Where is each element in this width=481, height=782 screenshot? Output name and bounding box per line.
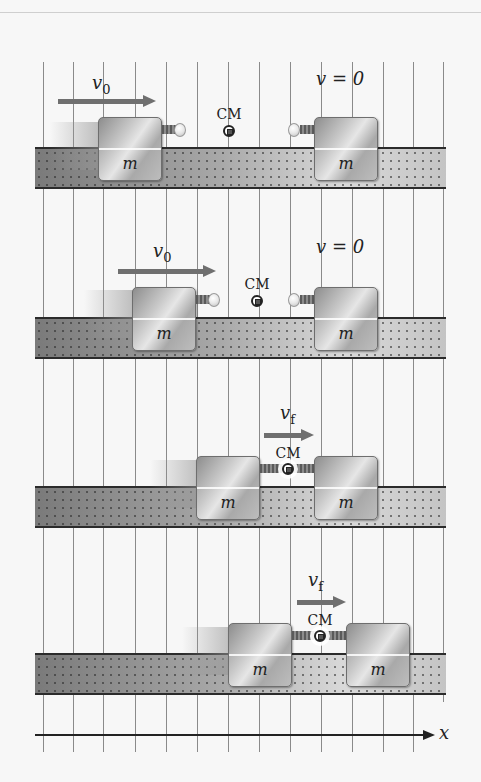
x-axis-line — [35, 734, 425, 736]
velocity-label-zero: v = 0 — [316, 68, 364, 89]
top-border-line — [0, 12, 481, 13]
bumper-ball — [174, 123, 186, 137]
x-axis-label: x — [439, 722, 449, 743]
block-right: m — [314, 287, 378, 351]
bumper-rod — [300, 125, 314, 134]
velocity-arrow — [118, 269, 204, 274]
motion-blur — [50, 122, 100, 170]
velocity-arrow — [58, 99, 144, 104]
center-of-mass-icon — [314, 630, 326, 642]
center-of-mass-icon — [223, 125, 235, 137]
velocity-label-zero: v = 0 — [316, 236, 364, 257]
mass-label: m — [347, 660, 409, 679]
block-right: m — [314, 117, 378, 181]
mass-label: m — [315, 154, 377, 173]
block-left: m — [196, 456, 260, 520]
center-of-mass-icon — [251, 295, 263, 307]
mass-label: m — [315, 493, 377, 512]
velocity-arrow — [297, 600, 334, 605]
motion-blur — [150, 460, 200, 508]
mass-label: m — [315, 324, 377, 343]
center-of-mass-icon — [282, 463, 294, 475]
mass-label: m — [133, 324, 195, 343]
mass-label: m — [99, 154, 161, 173]
velocity-label-v0: v0 — [92, 72, 110, 97]
cm-label: CM — [216, 106, 241, 122]
velocity-arrow — [264, 433, 302, 438]
block-right: m — [346, 623, 410, 687]
bumper-ball — [208, 293, 220, 307]
block-right: m — [314, 456, 378, 520]
mass-label: m — [229, 660, 291, 679]
x-axis-arrowhead-icon — [423, 730, 435, 740]
motion-blur — [84, 290, 134, 338]
velocity-label-vf: vf — [280, 402, 295, 427]
motion-blur — [182, 627, 232, 675]
block-left: m — [228, 623, 292, 687]
velocity-label-v0: v0 — [153, 240, 171, 265]
bumper-ball — [288, 123, 300, 137]
block-left: m — [98, 117, 162, 181]
velocity-label-vf: vf — [308, 569, 323, 594]
bumper-ball — [288, 293, 300, 307]
block-left: m — [132, 287, 196, 351]
bumper-rod — [300, 295, 314, 304]
mass-label: m — [197, 493, 259, 512]
cm-label: CM — [244, 276, 269, 292]
